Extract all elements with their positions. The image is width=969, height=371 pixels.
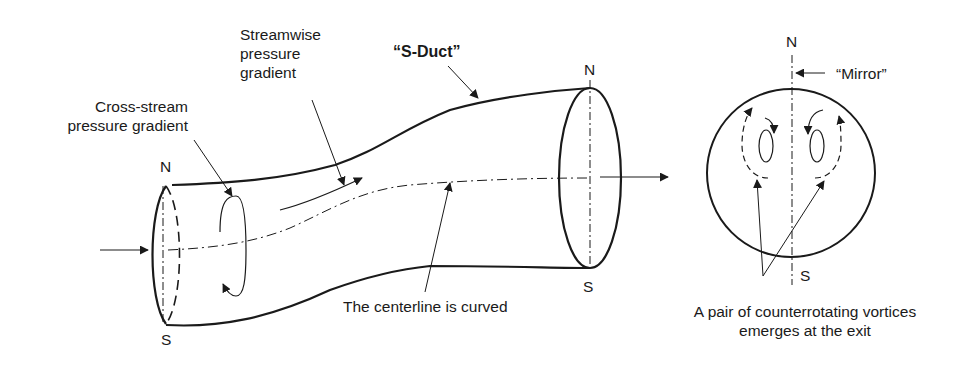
centerline-leader (425, 183, 450, 292)
streamwise-arrow (280, 178, 362, 210)
vortex-leader-right (763, 181, 824, 276)
inlet-south-label: S (161, 330, 171, 349)
inlet-face-front (153, 186, 167, 324)
exit-north-label: N (584, 60, 595, 79)
left-vortex-core (759, 130, 773, 162)
cross-stream-leader (194, 140, 232, 196)
mirror-label: “Mirror” (836, 64, 887, 83)
sduct-label: “S-Duct” (393, 42, 461, 61)
s-duct-diagram: Streamwise pressure gradient Cross-strea… (0, 0, 969, 371)
inlet-face-back (166, 186, 180, 324)
vortices-label: A pair of counterrotating vortices emerg… (655, 302, 955, 340)
cross-stream-label: Cross-stream pressure gradient (26, 97, 188, 135)
left-vortex-outer (742, 108, 768, 178)
section-south-label: S (800, 266, 810, 285)
section-north-label: N (786, 32, 797, 51)
inlet-north-label: N (160, 157, 171, 176)
vortex-leader-left (757, 180, 763, 276)
sduct-leader (448, 66, 478, 98)
centerline (168, 178, 590, 250)
right-vortex-outer (815, 116, 841, 178)
left-vortex-rotation-arrow (765, 118, 774, 133)
streamwise-label: Streamwise pressure gradient (240, 25, 321, 82)
cross-stream-swirl (220, 196, 246, 296)
streamwise-leader (312, 100, 344, 185)
duct-bottom-wall (166, 266, 590, 326)
duct-top-wall (172, 88, 590, 185)
exit-south-label: S (583, 277, 593, 296)
centerline-label: The centerline is curved (343, 297, 508, 316)
right-vortex-core (810, 130, 824, 162)
